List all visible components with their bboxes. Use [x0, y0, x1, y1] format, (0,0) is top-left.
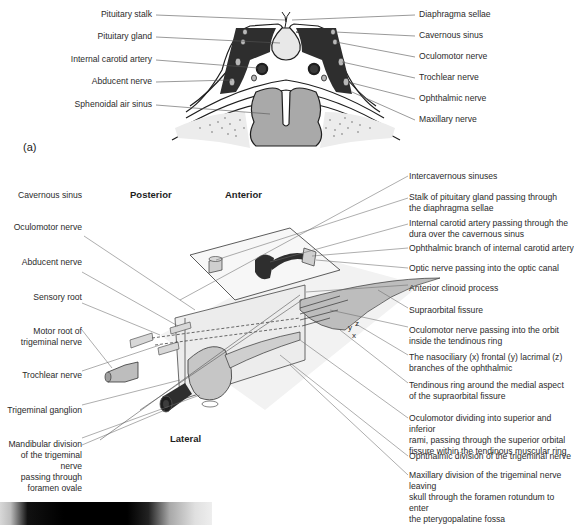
- label-cavernous-sinus: Cavernous sinus: [419, 30, 483, 41]
- branch-letter-z: z: [355, 318, 359, 329]
- orientation-lateral: Lateral: [170, 433, 201, 444]
- label-b-oculomotor-nerve: Oculomotor nerve: [0, 222, 82, 233]
- label-b-trochlear-nerve: Trochlear nerve: [0, 370, 82, 381]
- label-b-abducent-nerve: Abducent nerve: [0, 257, 82, 268]
- label-b-trigeminal-ganglion: Trigeminal ganglion: [0, 405, 82, 416]
- label-abducent-nerve: Abducent nerve: [40, 76, 152, 87]
- label-trochlear-nerve: Trochlear nerve: [419, 72, 479, 83]
- label-maxillary-nerve: Maxillary nerve: [419, 114, 477, 125]
- label-b-stalk-pituitary: Stalk of pituitary gland passing through…: [409, 192, 557, 214]
- pituitary-gland: [272, 28, 301, 60]
- label-sphenoidal-air-sinus: Sphenoidal air sinus: [40, 99, 152, 110]
- trigeminal-root-cylinder: [108, 362, 138, 382]
- label-internal-carotid-artery: Internal carotid artery: [40, 54, 152, 65]
- label-b-mandibular-division: Mandibular division of the trigeminal ne…: [0, 439, 82, 494]
- label-b-maxillary-division: Maxillary division of the trigeminal ner…: [409, 470, 569, 525]
- label-pituitary-gland: Pituitary gland: [40, 31, 152, 42]
- label-b-ophthalmic-division: Ophthalmic division of the trigeminal ne…: [409, 451, 571, 462]
- label-b-intercavernous-sinuses: Intercavernous sinuses: [409, 171, 497, 182]
- orientation-posterior: Posterior: [130, 189, 172, 200]
- label-b-motor-root: Motor root of trigeminal nerve: [0, 326, 82, 348]
- cavernous-sinus-left: [220, 28, 276, 94]
- label-diaphragma-sellae: Diaphragma sellae: [419, 9, 491, 20]
- label-b-ophthalmic-branch-ica: Ophthalmic branch of internal carotid ar…: [409, 243, 574, 254]
- label-b-cavernous-sinus: Cavernous sinus: [0, 190, 82, 201]
- label-b-tendinous-ring: Tendinous ring around the medial aspect …: [409, 380, 564, 402]
- label-b-optic-nerve: Optic nerve passing into the optic canal: [409, 263, 559, 274]
- label-ophthalmic-nerve: Ophthalmic nerve: [419, 93, 486, 104]
- branch-letter-x: x: [352, 330, 356, 341]
- photograph-strip: [0, 502, 212, 525]
- label-oculomotor-nerve: Oculomotor nerve: [419, 51, 487, 62]
- label-pituitary-stalk: Pituitary stalk: [40, 9, 152, 20]
- panel-label-a: (a): [23, 141, 36, 153]
- sphenoidal-air-sinus: [250, 88, 321, 146]
- orientation-anterior: Anterior: [225, 189, 262, 200]
- label-b-ophthalmic-branches: The nasociliary (x) frontal (y) lacrimal…: [409, 352, 562, 374]
- label-b-sensory-root: Sensory root: [0, 292, 82, 303]
- label-b-anterior-clinoid: Anterior clinoid process: [409, 283, 498, 294]
- label-b-internal-carotid: Internal carotid artery passing through …: [409, 218, 568, 240]
- label-b-oculomotor-orbit: Oculomotor nerve passing into the orbit …: [409, 325, 559, 347]
- label-b-supraorbital-fissure: Supraorbital fissure: [409, 305, 483, 316]
